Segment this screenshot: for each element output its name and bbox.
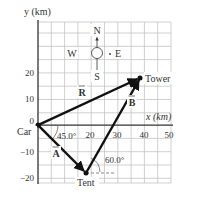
car-label: Car	[17, 126, 32, 137]
y-tick-10: 10	[25, 94, 35, 104]
vector-A-label: A	[52, 148, 60, 159]
vector-labels: R B A	[51, 85, 137, 159]
x-tick-30: 30	[113, 130, 123, 140]
y-tick-neg20: −20	[20, 173, 35, 183]
car-angle-label: 45.0°	[57, 131, 77, 141]
vector-B-label: B	[129, 97, 136, 108]
compass-east: E	[115, 48, 121, 59]
compass-south: S	[94, 71, 100, 82]
y-tick-20: 20	[25, 68, 35, 78]
compass-west: W	[67, 48, 77, 59]
tent-angle-label: 60.0°	[105, 155, 125, 165]
vector-diagram: y (km) x (km) 20 10 0 −10 −20 20 30 40 5…	[0, 0, 202, 205]
x-tick-50: 50	[165, 130, 175, 140]
y-axis-label: y (km)	[24, 6, 51, 18]
y-tick-0: 0	[30, 116, 35, 126]
x-axis-label: x (km)	[145, 111, 172, 123]
x-tick-20: 20	[86, 130, 96, 140]
x-tick-40: 40	[140, 130, 150, 140]
compass-north: N	[93, 25, 100, 36]
y-tick-neg10: −10	[20, 147, 35, 157]
tower-label: Tower	[145, 73, 171, 84]
tent-label: Tent	[77, 177, 95, 188]
tower-point	[138, 76, 143, 81]
compass-icon	[92, 48, 103, 59]
vector-R-label: R	[78, 87, 86, 98]
tent-point	[84, 171, 89, 176]
